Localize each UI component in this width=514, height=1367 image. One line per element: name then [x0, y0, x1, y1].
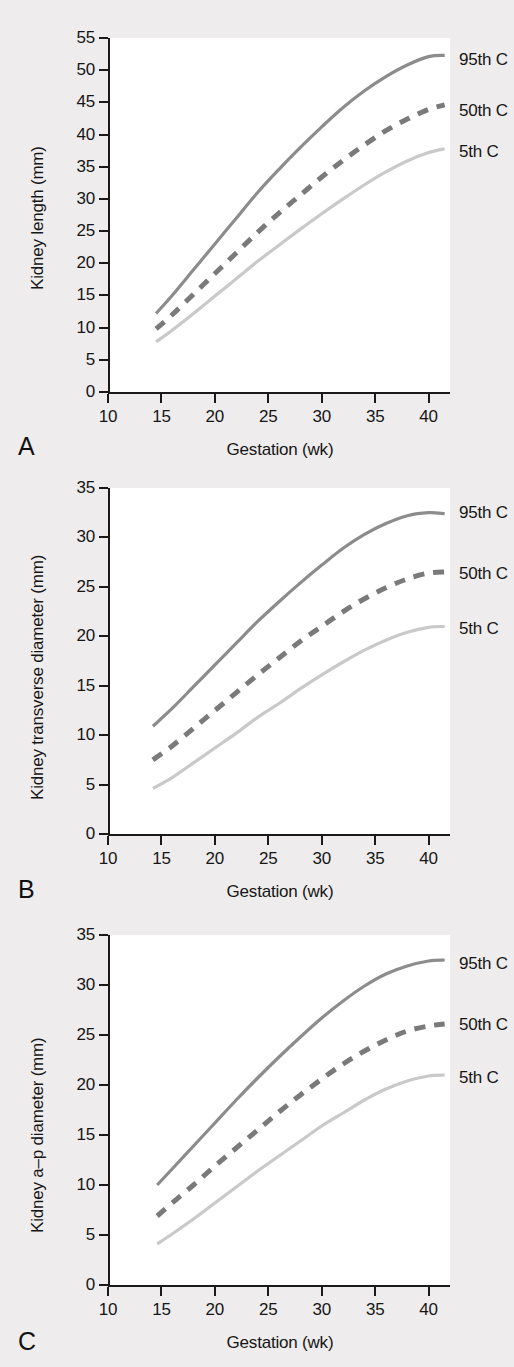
panel-letter-c: C	[18, 1327, 36, 1356]
curve-95th-c	[153, 513, 445, 727]
legend-label-p50-b: 50th C	[459, 564, 508, 584]
curve-50th-c	[157, 1024, 445, 1216]
legend-label-p5-c: 5th C	[459, 1068, 499, 1088]
legend-label-p5-a: 5th C	[459, 142, 499, 162]
curves-a	[0, 0, 514, 460]
legend-label-p50-a: 50th C	[459, 101, 508, 121]
legend-label-p95-a: 95th C	[459, 50, 508, 70]
curves-c	[0, 903, 514, 1367]
legend-label-p95-c: 95th C	[459, 954, 508, 974]
legend-label-p50-c: 50th C	[459, 1015, 508, 1035]
panel-letter-a: A	[18, 432, 35, 461]
curves-b	[0, 460, 514, 903]
panel-letter-b: B	[18, 875, 35, 904]
panel-a: 0510152025303540455055 10152025303540 Ki…	[0, 0, 514, 460]
curve-50th-c	[153, 572, 445, 760]
curve-5th-c	[157, 1075, 445, 1244]
legend-label-p5-b: 5th C	[459, 619, 499, 639]
panel-c: 05101520253035 10152025303540 Kidney a–p…	[0, 903, 514, 1367]
curve-5th-c	[153, 626, 445, 788]
legend-label-p95-b: 95th C	[459, 503, 508, 523]
curve-5th-c	[156, 149, 445, 342]
panel-b: 05101520253035 10152025303540 Kidney tra…	[0, 460, 514, 903]
curve-95th-c	[156, 55, 445, 313]
curve-50th-c	[156, 105, 445, 329]
curve-95th-c	[157, 960, 445, 1185]
